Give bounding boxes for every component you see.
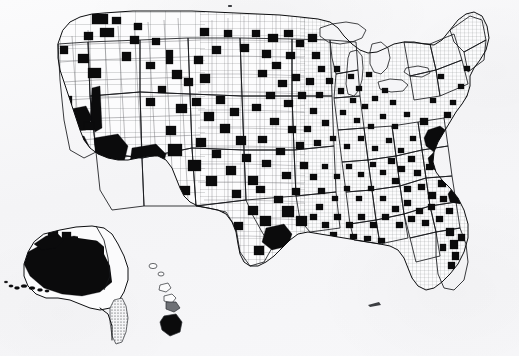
island-oahu [159, 283, 171, 292]
hawaii-islands [149, 263, 182, 336]
island-maui [166, 302, 180, 312]
alaska-panhandle [110, 298, 128, 344]
island-oahu-west [158, 272, 164, 276]
island-kauai [149, 263, 157, 268]
hawaii-inset [149, 263, 182, 336]
us-county-choropleth-svg [0, 0, 519, 356]
map-figure: Black and white county-level map of the … [0, 0, 519, 356]
alaska-inset [4, 226, 128, 344]
island-hawaii [160, 314, 182, 336]
